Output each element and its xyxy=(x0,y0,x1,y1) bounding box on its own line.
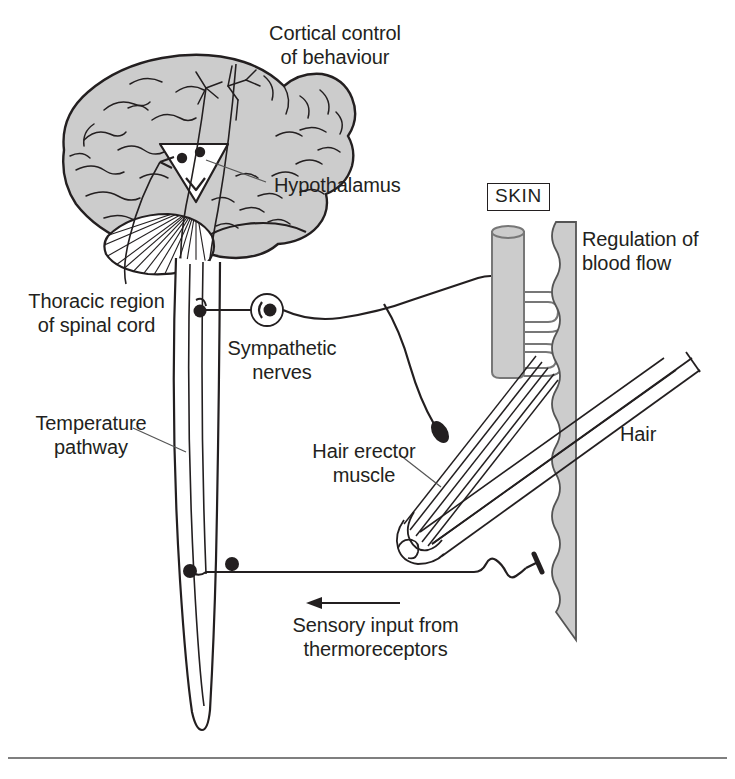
follicle-channel xyxy=(420,358,676,544)
label-skin: SKIN xyxy=(487,183,550,211)
skin-layer xyxy=(552,222,576,640)
nerve-to-erector-muscle xyxy=(384,304,434,424)
vessel-top-opening xyxy=(492,226,524,238)
nerve-terminal-muscle xyxy=(427,418,452,446)
spinal-cord xyxy=(174,258,220,730)
sympathetic-outflow xyxy=(194,271,521,446)
synapse-dot-thoracic xyxy=(194,305,207,318)
thermoregulation-figure: Cortical control of behaviour Hypothalam… xyxy=(0,0,735,779)
hair-structure xyxy=(397,352,700,564)
diagram-canvas xyxy=(0,0,735,779)
afferent-fibre xyxy=(206,559,526,578)
skin-band xyxy=(552,222,576,640)
leader-erector-muscle xyxy=(400,455,441,487)
sensory-arrow xyxy=(306,597,400,609)
sensory-pathway xyxy=(183,554,542,609)
sympathetic-ganglion xyxy=(251,294,283,326)
nerve-to-blood-vessel xyxy=(283,276,500,319)
